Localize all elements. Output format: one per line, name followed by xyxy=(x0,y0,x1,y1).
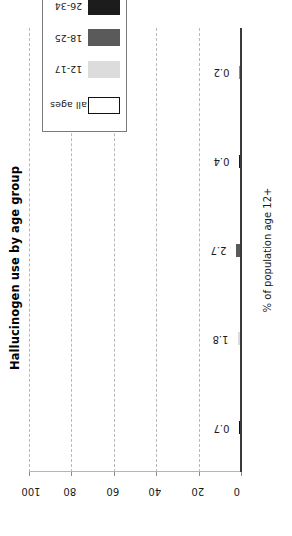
bar-slot: 1.8 xyxy=(30,294,242,383)
axis-tick-label: 40 xyxy=(149,486,171,497)
legend-swatch xyxy=(88,29,120,46)
legend-label: all ages xyxy=(50,100,87,111)
axis-tick-label: 80 xyxy=(64,486,86,497)
gridline xyxy=(156,28,157,472)
axis-tick-label: 100 xyxy=(22,486,44,497)
chart-figure: Hallucinogen use by age group 0.71.82.70… xyxy=(0,0,292,536)
axis-spine-left xyxy=(30,471,242,472)
axis-baseline xyxy=(240,28,242,472)
legend-label: 18-25 xyxy=(55,32,83,43)
axis-tick-label: 60 xyxy=(106,486,128,497)
axis-tick-label: 20 xyxy=(191,486,213,497)
bar-slot: 2.7 xyxy=(30,206,242,295)
legend-entry[interactable]: 12-17 xyxy=(49,56,120,84)
bar-slot: 0.7 xyxy=(30,383,242,472)
axis-tick-mark xyxy=(71,472,72,476)
axis-tick-mark xyxy=(199,472,200,476)
bar-value-label: 0.2 xyxy=(214,67,230,78)
gridline xyxy=(199,28,200,472)
bar-value-label: 2.7 xyxy=(211,245,227,256)
axis-tick-label: 0 xyxy=(234,486,256,497)
legend-entry[interactable]: 18-25 xyxy=(49,24,120,52)
legend-entry[interactable]: 26-34 xyxy=(49,0,120,20)
legend-swatch xyxy=(88,61,120,78)
axis-tick-mark xyxy=(29,472,30,476)
bar-value-label: 1.8 xyxy=(213,333,229,344)
axis-title-y: % of population age 12+ xyxy=(262,28,273,472)
legend-swatch xyxy=(88,0,120,15)
bar-value-label: 0.7 xyxy=(214,422,230,433)
chart-legend: all ages12-1718-2526-3435+ xyxy=(42,0,127,132)
legend-swatch xyxy=(88,97,120,114)
bar-value-label: 0.4 xyxy=(214,156,230,167)
axis-tick-mark xyxy=(241,472,242,476)
chart-title: Hallucinogen use by age group xyxy=(0,0,22,536)
legend-label: 26-34 xyxy=(55,1,83,12)
axis-tick-mark xyxy=(114,472,115,476)
axis-tick-mark xyxy=(156,472,157,476)
gridline xyxy=(29,28,30,472)
legend-label: 12-17 xyxy=(55,64,83,75)
legend-entry[interactable]: all ages xyxy=(49,87,120,124)
